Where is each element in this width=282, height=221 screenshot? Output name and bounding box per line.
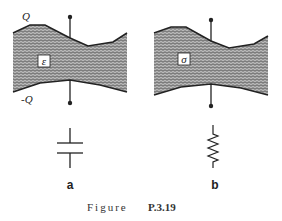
sublabel-b: b xyxy=(211,178,218,192)
figure-caption-prefix: Figure xyxy=(87,201,128,213)
sublabel-a: a xyxy=(67,178,74,192)
top-terminal xyxy=(209,18,213,22)
panel-a: ε Q -Q xyxy=(13,10,127,105)
bottom-terminal xyxy=(209,104,213,108)
capacitor-symbol-icon xyxy=(57,128,83,168)
figure-caption-id: P.3.19 xyxy=(148,201,176,213)
panel-b: σ xyxy=(154,18,268,108)
top-terminal xyxy=(68,15,72,19)
epsilon-symbol: ε xyxy=(42,55,47,67)
figure-canvas: ε Q -Q σ a b Figure P.3.19 xyxy=(0,0,282,221)
charge-label-negative: -Q xyxy=(21,93,33,105)
charge-label-positive: Q xyxy=(22,10,30,22)
resistor-symbol-icon xyxy=(208,125,218,168)
bottom-terminal xyxy=(68,101,72,105)
sigma-symbol: σ xyxy=(181,53,187,65)
